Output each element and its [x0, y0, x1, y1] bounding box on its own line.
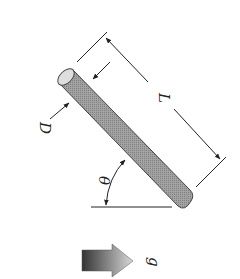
length-dimension-upper: [106, 38, 148, 82]
diameter-arrow-right: [93, 62, 110, 79]
diameter-arrow-left: [50, 103, 69, 119]
rod-diagram: L D θ g: [0, 0, 240, 279]
extension-line-bottom: [196, 157, 226, 187]
diameter-label: D: [36, 121, 54, 134]
gravity-arrow-icon: [82, 244, 133, 277]
angle-label: θ: [95, 176, 113, 185]
extension-line-top: [77, 32, 107, 62]
gravity-label: g: [145, 257, 163, 267]
cylinder-rod: [55, 66, 193, 208]
length-dimension-lower: [174, 109, 220, 159]
length-label: L: [155, 92, 173, 103]
